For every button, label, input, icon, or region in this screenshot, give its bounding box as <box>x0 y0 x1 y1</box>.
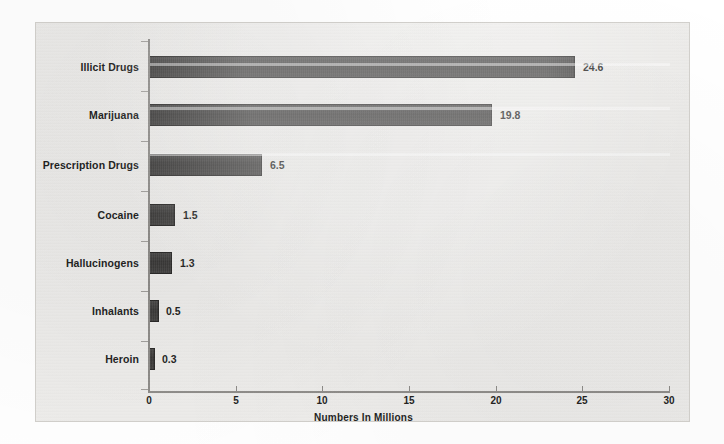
value-axis-tick-label: 5 <box>233 395 239 406</box>
chart-panel: Illicit Drugs 24.6 Marijuana 19.8 Prescr… <box>35 22 690 422</box>
value-axis-tick-label: 15 <box>403 395 414 406</box>
value-axis-tick <box>669 386 670 392</box>
category-label: Prescription Drugs <box>36 159 139 171</box>
category-axis-tick <box>141 341 148 342</box>
category-axis-tick <box>141 91 148 92</box>
category-axis-tick <box>141 141 148 142</box>
category-axis-tick <box>141 241 148 242</box>
value-axis-tick <box>496 386 497 392</box>
category-label-box: Heroin <box>36 337 139 381</box>
category-axis-tick <box>141 191 148 192</box>
bar[interactable] <box>149 56 575 78</box>
category-label: Marijuana <box>36 109 139 121</box>
category-label: Hallucinogens <box>36 257 139 269</box>
bar[interactable] <box>149 204 175 226</box>
value-axis-tick-label: 20 <box>490 395 501 406</box>
bar-value-label: 24.6 <box>583 45 603 89</box>
bar-value-label: 1.3 <box>180 241 195 285</box>
value-axis-tick-label: 10 <box>316 395 327 406</box>
bar-row: Cocaine 1.5 <box>36 193 690 237</box>
bar-value-label: 19.8 <box>500 93 520 137</box>
bar-value-label: 1.5 <box>183 193 198 237</box>
category-label-box: Hallucinogens <box>36 241 139 285</box>
value-axis-tick <box>582 386 583 392</box>
value-axis-tick <box>322 386 323 392</box>
bar-value-label: 0.3 <box>162 337 177 381</box>
bar-value-label: 6.5 <box>270 143 285 187</box>
bar[interactable] <box>149 252 172 274</box>
category-axis-tick <box>141 41 148 42</box>
scan-band <box>150 63 670 66</box>
value-axis-tick <box>149 386 150 392</box>
category-label-box: Inhalants <box>36 289 139 333</box>
category-label-box: Cocaine <box>36 193 139 237</box>
category-axis-tick <box>141 389 148 390</box>
category-label: Illicit Drugs <box>36 61 139 73</box>
bar-row: Heroin 0.3 <box>36 337 690 381</box>
scan-band <box>150 107 670 110</box>
value-axis-tick <box>409 386 410 392</box>
category-label: Heroin <box>36 353 139 365</box>
bar-row: Illicit Drugs 24.6 <box>36 45 690 89</box>
plot-area: Illicit Drugs 24.6 Marijuana 19.8 Prescr… <box>36 23 690 422</box>
bar[interactable] <box>149 154 262 176</box>
scan-band <box>150 153 670 156</box>
value-axis-title: Numbers In Millions <box>36 412 690 422</box>
value-axis-tick <box>236 386 237 392</box>
scanned-page: Illicit Drugs 24.6 Marijuana 19.8 Prescr… <box>0 0 724 444</box>
category-label-box: Illicit Drugs <box>36 45 139 89</box>
category-label: Cocaine <box>36 209 139 221</box>
category-label-box: Prescription Drugs <box>36 143 139 187</box>
category-axis-tick <box>141 291 148 292</box>
value-axis-tick-label: 25 <box>576 395 587 406</box>
category-label-box: Marijuana <box>36 93 139 137</box>
value-axis-line <box>148 39 150 391</box>
bar[interactable] <box>149 300 159 322</box>
value-axis-tick-label: 30 <box>663 395 674 406</box>
bar-row: Prescription Drugs 6.5 <box>36 143 690 187</box>
category-label: Inhalants <box>36 305 139 317</box>
bar-row: Marijuana 19.8 <box>36 93 690 137</box>
value-axis-tick-label: 0 <box>146 395 152 406</box>
bar-value-label: 0.5 <box>166 289 181 333</box>
bar-row: Inhalants 0.5 <box>36 289 690 333</box>
bar-row: Hallucinogens 1.3 <box>36 241 690 285</box>
